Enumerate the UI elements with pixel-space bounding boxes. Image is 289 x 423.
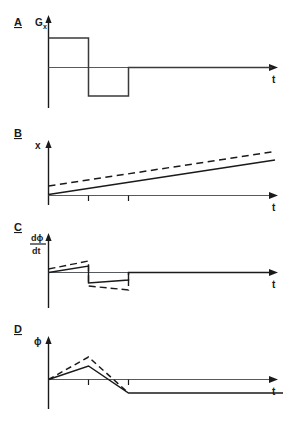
panel-c-y-axis-arrowhead	[45, 233, 51, 241]
panel-c-x-axis-label: t	[272, 279, 276, 290]
panel-a-label: A	[14, 16, 22, 28]
panel-b-x-axis-arrowhead	[269, 192, 278, 199]
mri-gradient-phase-figure: A G x t B x t C dϕ dt	[0, 0, 289, 423]
panel-a-y-axis-sublabel: x	[43, 23, 47, 30]
panel-a-y-axis-arrowhead	[45, 15, 51, 23]
panel-d-x-axis-arrowhead	[269, 376, 278, 383]
panel-d: D ϕ t	[14, 323, 283, 409]
panel-b-dashed-trace	[49, 152, 276, 187]
panel-c-y-axis-numerator: dϕ	[31, 233, 43, 243]
panel-c-dashed-trace	[49, 261, 129, 290]
panel-b-y-axis-label: x	[35, 140, 41, 151]
panel-a: A G x t	[14, 15, 278, 108]
panel-a-y-axis-label: G	[35, 17, 43, 28]
panel-c: C dϕ dt t	[14, 221, 278, 308]
panel-c-solid-trace	[49, 266, 273, 283]
panel-b: B x t	[14, 127, 278, 213]
panel-d-y-axis-arrowhead	[45, 336, 51, 344]
panel-d-y-axis-label: ϕ	[34, 336, 42, 347]
panel-b-x-axis-label: t	[272, 202, 276, 213]
panel-b-solid-trace	[49, 160, 276, 195]
panel-d-x-axis-label: t	[272, 386, 276, 397]
panel-b-y-axis-arrowhead	[45, 140, 51, 148]
panel-c-y-axis-denominator: dt	[32, 246, 41, 256]
panel-b-label: B	[14, 127, 22, 139]
panel-a-x-axis-label: t	[272, 74, 276, 85]
panel-d-label: D	[14, 323, 22, 335]
panel-c-label: C	[14, 221, 22, 233]
